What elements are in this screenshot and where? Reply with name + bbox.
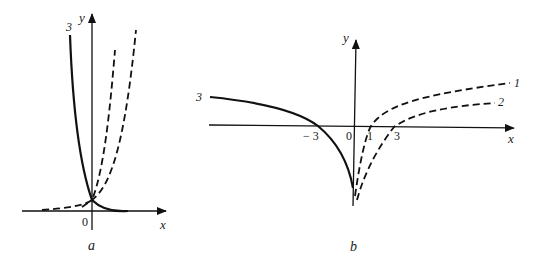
panel-a: y x 0 3 a [22,10,166,253]
x-axis [209,125,514,128]
origin-label: 0 [82,215,88,229]
y-axis [353,40,356,206]
tick-1: 1 [367,129,373,143]
x-axis-label: x [507,131,514,146]
curve-3-label: 3 [195,90,202,104]
curve-1-label: 1 [514,76,520,90]
tick-neg3: − 3 [303,129,319,143]
figure: y x 0 3 a y x 0 − 3 1 3 1 2 3 b [0,0,536,262]
curve-3 [70,35,128,211]
panel-b: y x 0 − 3 1 3 1 2 3 b [195,30,520,254]
curve-2-label: 2 [498,95,504,109]
y-axis-label: y [77,10,85,25]
caption-b: b [350,239,357,254]
y-axis-label: y [341,30,349,45]
curve-1 [355,83,510,196]
origin-label: 0 [346,129,352,143]
curve-dashed-steep [42,50,115,210]
x-axis-label: x [159,217,166,232]
tick-3: 3 [394,129,400,143]
curve-3-label: 3 [65,20,72,34]
caption-a: a [88,238,95,253]
curve-3 [210,97,353,188]
